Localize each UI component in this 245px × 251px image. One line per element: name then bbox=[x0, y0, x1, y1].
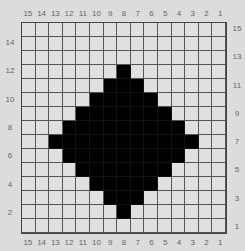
empty-cell bbox=[158, 177, 172, 191]
empty-cell bbox=[212, 23, 226, 37]
filled-cell bbox=[117, 191, 131, 205]
column-label: 14 bbox=[35, 9, 49, 19]
empty-cell bbox=[158, 23, 172, 37]
empty-cell bbox=[63, 219, 77, 233]
empty-cell bbox=[63, 79, 77, 93]
filled-cell bbox=[104, 177, 118, 191]
empty-cell bbox=[22, 79, 36, 93]
empty-cell bbox=[172, 23, 186, 37]
empty-cell bbox=[158, 51, 172, 65]
column-labels-bottom: 151413121110987654321 bbox=[21, 238, 227, 248]
empty-cell bbox=[185, 37, 199, 51]
column-label: 3 bbox=[186, 9, 200, 19]
empty-cell bbox=[172, 177, 186, 191]
empty-cell bbox=[144, 51, 158, 65]
empty-cell bbox=[63, 205, 77, 219]
filled-cell bbox=[104, 79, 118, 93]
empty-cell bbox=[199, 163, 213, 177]
empty-cell bbox=[144, 23, 158, 37]
empty-cell bbox=[199, 121, 213, 135]
row-label: 4 bbox=[3, 180, 17, 190]
empty-cell bbox=[172, 191, 186, 205]
filled-cell bbox=[76, 149, 90, 163]
empty-cell bbox=[90, 51, 104, 65]
empty-cell bbox=[144, 37, 158, 51]
empty-cell bbox=[185, 107, 199, 121]
column-label: 12 bbox=[62, 238, 76, 248]
empty-cell bbox=[36, 205, 50, 219]
column-label: 3 bbox=[186, 238, 200, 248]
empty-cell bbox=[49, 191, 63, 205]
filled-cell bbox=[172, 149, 186, 163]
filled-cell bbox=[117, 205, 131, 219]
column-label: 6 bbox=[145, 238, 159, 248]
filled-cell bbox=[104, 149, 118, 163]
empty-cell bbox=[172, 107, 186, 121]
row-label: 7 bbox=[230, 137, 244, 147]
row-label: 2 bbox=[3, 208, 17, 218]
empty-cell bbox=[131, 205, 145, 219]
empty-cell bbox=[212, 191, 226, 205]
empty-cell bbox=[185, 219, 199, 233]
filled-cell bbox=[90, 93, 104, 107]
empty-cell bbox=[131, 219, 145, 233]
empty-cell bbox=[185, 163, 199, 177]
empty-cell bbox=[172, 79, 186, 93]
empty-cell bbox=[144, 219, 158, 233]
filled-cell bbox=[144, 107, 158, 121]
empty-cell bbox=[22, 37, 36, 51]
empty-cell bbox=[117, 51, 131, 65]
empty-cell bbox=[76, 65, 90, 79]
empty-cell bbox=[76, 219, 90, 233]
empty-cell bbox=[36, 37, 50, 51]
empty-cell bbox=[36, 219, 50, 233]
filled-cell bbox=[117, 79, 131, 93]
empty-cell bbox=[212, 51, 226, 65]
empty-cell bbox=[185, 93, 199, 107]
empty-cell bbox=[212, 205, 226, 219]
empty-cell bbox=[199, 37, 213, 51]
empty-cell bbox=[144, 205, 158, 219]
filled-cell bbox=[90, 177, 104, 191]
empty-cell bbox=[185, 51, 199, 65]
empty-cell bbox=[36, 51, 50, 65]
empty-cell bbox=[22, 149, 36, 163]
empty-cell bbox=[158, 79, 172, 93]
filled-cell bbox=[131, 107, 145, 121]
filled-cell bbox=[90, 121, 104, 135]
empty-cell bbox=[104, 37, 118, 51]
empty-cell bbox=[22, 121, 36, 135]
empty-cell bbox=[63, 93, 77, 107]
empty-cell bbox=[36, 107, 50, 121]
empty-cell bbox=[212, 135, 226, 149]
filled-cell bbox=[117, 149, 131, 163]
column-label: 1 bbox=[213, 9, 227, 19]
empty-cell bbox=[49, 51, 63, 65]
empty-cell bbox=[49, 65, 63, 79]
column-label: 1 bbox=[213, 238, 227, 248]
column-label: 5 bbox=[158, 9, 172, 19]
filled-cell bbox=[104, 191, 118, 205]
empty-cell bbox=[49, 219, 63, 233]
empty-cell bbox=[63, 191, 77, 205]
empty-cell bbox=[49, 107, 63, 121]
empty-cell bbox=[185, 79, 199, 93]
empty-cell bbox=[199, 205, 213, 219]
empty-cell bbox=[22, 23, 36, 37]
empty-cell bbox=[36, 163, 50, 177]
empty-cell bbox=[76, 93, 90, 107]
empty-cell bbox=[36, 93, 50, 107]
empty-cell bbox=[63, 51, 77, 65]
empty-cell bbox=[76, 51, 90, 65]
empty-cell bbox=[76, 23, 90, 37]
empty-cell bbox=[49, 163, 63, 177]
empty-cell bbox=[172, 51, 186, 65]
empty-cell bbox=[199, 65, 213, 79]
filled-cell bbox=[158, 107, 172, 121]
empty-cell bbox=[212, 37, 226, 51]
row-label: 11 bbox=[230, 81, 244, 91]
filled-cell bbox=[117, 65, 131, 79]
filled-cell bbox=[117, 135, 131, 149]
empty-cell bbox=[36, 23, 50, 37]
empty-cell bbox=[104, 23, 118, 37]
